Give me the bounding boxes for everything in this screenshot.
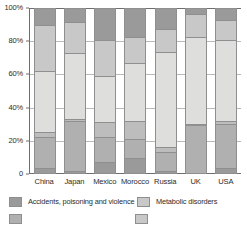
x-axis-category-label: Russia xyxy=(150,176,180,188)
bar-segment[interactable] xyxy=(65,22,85,53)
stacked-bar[interactable] xyxy=(155,8,177,174)
bar-segment[interactable] xyxy=(95,40,115,76)
legend-swatch-icon xyxy=(9,214,22,224)
bar-segment[interactable] xyxy=(35,168,55,173)
stacked-bar[interactable] xyxy=(94,8,116,174)
legend-swatch-icon xyxy=(9,197,22,207)
bar-segment[interactable] xyxy=(125,121,145,139)
bar-segment[interactable] xyxy=(216,168,236,173)
bar-segment[interactable] xyxy=(156,52,176,147)
stacked-bar[interactable] xyxy=(185,8,207,174)
stacked-bar[interactable] xyxy=(215,8,237,174)
x-axis-labels: ChinaJapanMexicoMoroccoRussiaUKUSA xyxy=(29,176,241,188)
bar-slot xyxy=(60,8,90,174)
x-axis-category-label: Mexico xyxy=(90,176,120,188)
legend-item[interactable]: Metabolic disorders xyxy=(123,194,247,209)
legend-label: Accidents, poisoning and violence xyxy=(28,197,134,207)
legend-row xyxy=(0,211,247,226)
bar-segment[interactable] xyxy=(125,158,145,173)
y-axis-tick-label: 60% xyxy=(9,71,23,79)
x-axis-category-label: Japan xyxy=(59,176,89,188)
bar-segment[interactable] xyxy=(35,9,55,25)
bar-segment[interactable] xyxy=(95,76,115,122)
bar-slot xyxy=(120,8,150,174)
y-axis-tick-label: 80% xyxy=(9,37,23,45)
bar-segment[interactable] xyxy=(216,40,236,120)
legend-row: Accidents, poisoning and violenceMetabol… xyxy=(0,194,247,209)
bar-segment[interactable] xyxy=(125,9,145,37)
bar-group xyxy=(30,8,241,174)
bar-segment[interactable] xyxy=(156,171,176,173)
stacked-bar[interactable] xyxy=(34,8,56,174)
bar-segment[interactable] xyxy=(156,152,176,172)
bar-segment[interactable] xyxy=(65,53,85,119)
x-axis-category-label: USA xyxy=(211,176,241,188)
bar-slot xyxy=(30,8,60,174)
y-axis-tick-label: 0 xyxy=(19,170,23,178)
legend-item[interactable]: Accidents, poisoning and violence xyxy=(0,194,123,209)
bar-segment[interactable] xyxy=(156,9,176,29)
bar-slot xyxy=(90,8,120,174)
bar-segment[interactable] xyxy=(186,125,206,173)
bar-segment[interactable] xyxy=(95,137,115,162)
stacked-bar[interactable] xyxy=(64,8,86,174)
bar-slot xyxy=(211,8,241,174)
legend-item[interactable] xyxy=(0,211,121,226)
bar-slot xyxy=(151,8,181,174)
legend-swatch-icon xyxy=(137,197,150,207)
chart-legend: Accidents, poisoning and violenceMetabol… xyxy=(0,194,247,227)
x-axis-category-label: China xyxy=(29,176,59,188)
bar-segment[interactable] xyxy=(216,9,236,20)
bar-segment[interactable] xyxy=(216,124,236,168)
bar-segment[interactable] xyxy=(125,37,145,63)
legend-label: Metabolic disorders xyxy=(156,197,217,207)
bar-segment[interactable] xyxy=(65,121,85,172)
bar-segment[interactable] xyxy=(216,20,236,40)
x-axis-category-label: Morocco xyxy=(120,176,150,188)
bar-segment[interactable] xyxy=(95,122,115,137)
bar-segment[interactable] xyxy=(65,171,85,173)
bar-segment[interactable] xyxy=(186,37,206,124)
y-axis-tick-label: 40% xyxy=(9,104,23,112)
bar-segment[interactable] xyxy=(156,29,176,52)
bar-segment[interactable] xyxy=(186,14,206,37)
plot-area xyxy=(29,8,241,174)
bar-segment[interactable] xyxy=(65,9,85,22)
bar-segment[interactable] xyxy=(95,162,115,173)
chart-root: 020%40%60%80%100% ChinaJapanMexicoMorocc… xyxy=(0,0,247,227)
legend-item[interactable] xyxy=(121,211,247,226)
y-axis-tick-label: 100% xyxy=(5,4,23,12)
plot-area-wrapper: 020%40%60%80%100% ChinaJapanMexicoMorocc… xyxy=(0,0,247,188)
bar-segment[interactable] xyxy=(35,71,55,132)
y-axis-tick-label: 20% xyxy=(9,137,23,145)
bar-segment[interactable] xyxy=(95,9,115,40)
x-axis-category-label: UK xyxy=(180,176,210,188)
bar-segment[interactable] xyxy=(125,63,145,120)
bar-slot xyxy=(181,8,211,174)
stacked-bar[interactable] xyxy=(124,8,146,174)
y-axis-labels: 020%40%60%80%100% xyxy=(0,0,26,188)
bar-segment[interactable] xyxy=(35,137,55,168)
legend-swatch-icon xyxy=(135,214,148,224)
bar-segment[interactable] xyxy=(35,25,55,71)
bar-segment[interactable] xyxy=(125,139,145,159)
